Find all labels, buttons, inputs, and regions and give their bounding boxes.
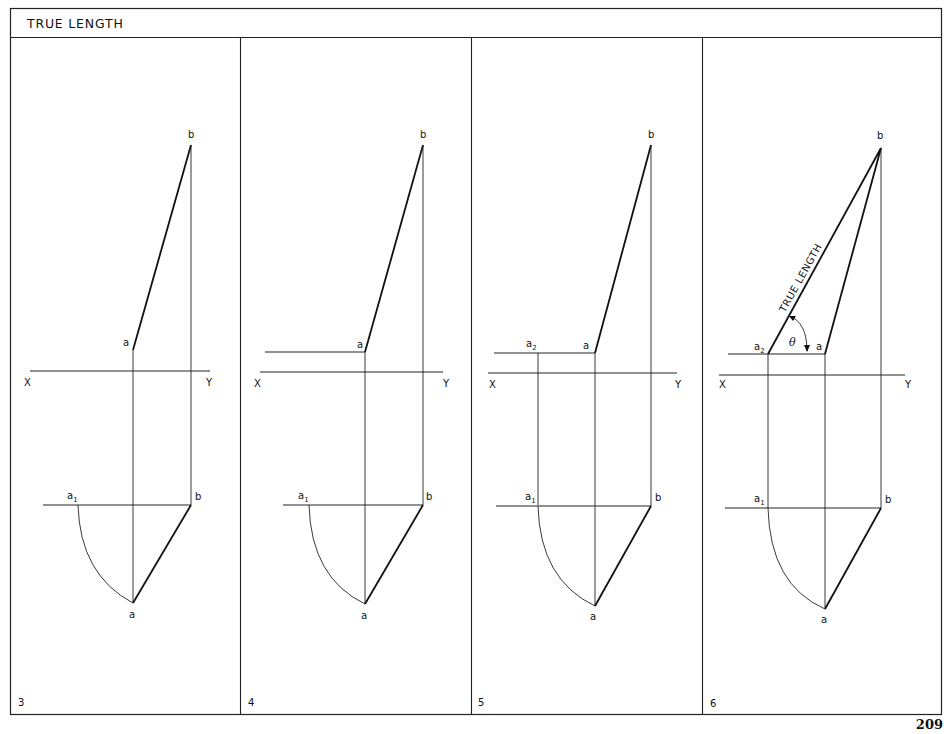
elevation-line-ab [595,145,651,353]
label-a-plan: a [361,610,367,621]
elevation-line-ab [133,145,191,350]
plan-line-ab [365,505,423,604]
header-title: TRUE LENGTH [26,16,124,31]
label-a1: a1 [525,491,536,505]
arrowhead-icon [804,345,810,352]
label-b-elevation: b [420,129,426,140]
theta-label: θ [789,336,796,349]
plan-line-ab [595,506,651,606]
label-b-elevation: b [877,130,883,141]
label-a1: a1 [298,490,309,504]
label-b-elevation: b [648,129,654,140]
label-a-plan: a [590,611,596,622]
panel-number: 4 [248,697,254,708]
plan-line-ab [825,508,881,609]
panel-3: X Y b a a1 b a 3 [18,129,213,708]
y-label: Y [442,378,450,389]
label-b-elevation: b [188,129,194,140]
label-b-plan: b [885,494,891,505]
label-b-plan: b [655,492,661,503]
swing-arc [78,505,133,603]
plan-line-ab [133,505,191,603]
x-label: X [719,379,726,390]
label-a1: a1 [754,493,765,507]
label-a-elevation: a [816,341,822,352]
label-a-plan: a [821,614,827,625]
elevation-line-ab [365,145,423,352]
true-length-line [768,148,881,354]
label-b-plan: b [426,491,432,502]
panel-number: 3 [18,697,24,708]
label-a2: a2 [754,341,765,355]
label-a-elevation: a [123,337,129,348]
y-label: Y [904,379,912,390]
swing-arc [309,505,365,604]
label-a-elevation: a [583,340,589,351]
label-a-elevation: a [357,339,363,350]
y-label: Y [205,377,213,388]
swing-arc [768,508,825,609]
label-a-plan: a [129,609,135,620]
panel-4: X Y b a a1 b a 4 [248,129,450,708]
page-number: 209 [916,717,943,732]
x-label: X [24,377,31,388]
panel-5: X Y b a a2 a1 b a 5 [478,129,682,708]
panel-number: 6 [710,698,716,709]
panel-6: X Y b a a2 TRUE LENGTH θ a1 b a 6 [710,130,912,709]
x-label: X [489,379,496,390]
x-label: X [254,378,261,389]
label-b-plan: b [195,491,201,502]
elevation-line-ab [825,148,881,354]
y-label: Y [674,379,682,390]
label-a1: a1 [67,490,78,504]
swing-arc [538,506,595,606]
outer-frame [11,9,942,715]
panel-number: 5 [478,697,484,708]
true-length-label: TRUE LENGTH [777,241,824,314]
label-a2: a2 [526,338,537,352]
drawing-sheet: TRUE LENGTH X Y b a a1 b a 3 X Y b a [0,0,951,734]
